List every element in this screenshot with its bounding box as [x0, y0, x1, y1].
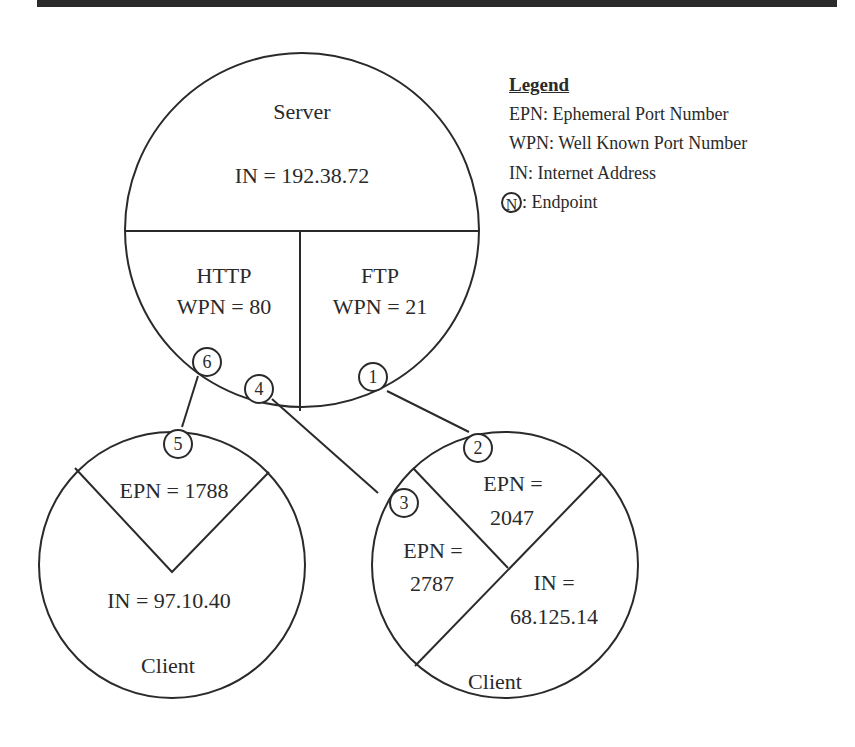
endpoint-badge-icon: N	[501, 192, 522, 213]
endpoint-5-label: 5	[174, 434, 183, 454]
legend-item-wpn: WPN: Well Known Port Number	[509, 129, 747, 159]
client-right-port-2787-line1: EPN =	[403, 538, 462, 563]
client-left-label: Client	[141, 653, 195, 678]
connection-4-to-3	[272, 399, 378, 493]
client-right-port-2047-line2: 2047	[490, 505, 534, 530]
client-right-label: Client	[468, 669, 522, 694]
server-address: IN = 192.38.72	[235, 163, 370, 188]
legend-title: Legend	[509, 70, 747, 100]
connection-1-to-2	[387, 391, 469, 432]
client-right-port-2047-line1: EPN =	[483, 471, 542, 496]
connection-6-to-5	[182, 376, 198, 427]
server-ftp-protocol: FTP	[361, 263, 399, 288]
client-left-port: EPN = 1788	[120, 478, 229, 503]
client-right-address-line1: IN =	[533, 570, 574, 595]
server-title: Server	[273, 99, 331, 124]
server-http-port: WPN = 80	[177, 294, 271, 319]
endpoint-4-label: 4	[255, 379, 264, 399]
endpoint-3-label: 3	[400, 493, 409, 513]
legend-item-epn: EPN: Ephemeral Port Number	[509, 100, 747, 130]
client-right-address-line2: 68.125.14	[510, 604, 598, 629]
endpoint-2-label: 2	[474, 438, 483, 458]
client-left-address: IN = 97.10.40	[107, 588, 231, 613]
endpoint-1-label: 1	[369, 367, 378, 387]
client-right-port-2787-line2: 2787	[410, 571, 454, 596]
endpoint-6-label: 6	[203, 352, 212, 372]
legend-item-in: IN: Internet Address	[509, 159, 747, 189]
server-http-protocol: HTTP	[197, 263, 252, 288]
legend: Legend EPN: Ephemeral Port Number WPN: W…	[509, 70, 747, 218]
legend-item-endpoint: N: Endpoint	[501, 188, 747, 218]
legend-item-endpoint-label: : Endpoint	[522, 192, 598, 212]
server-ftp-port: WPN = 21	[333, 294, 427, 319]
